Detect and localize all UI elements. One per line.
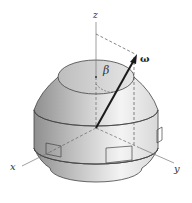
arrowhead-icon	[130, 54, 137, 64]
omega-projection-horizontal	[96, 34, 135, 54]
omega-label: ω	[140, 53, 150, 64]
beta-label: β	[102, 64, 109, 77]
spacecraft-diagram: z x y ω β	[0, 0, 192, 203]
origin-point	[95, 76, 97, 78]
x-axis-label: x	[10, 161, 16, 172]
z-axis-label: z	[92, 10, 98, 20]
y-axis-label: y	[173, 163, 180, 174]
